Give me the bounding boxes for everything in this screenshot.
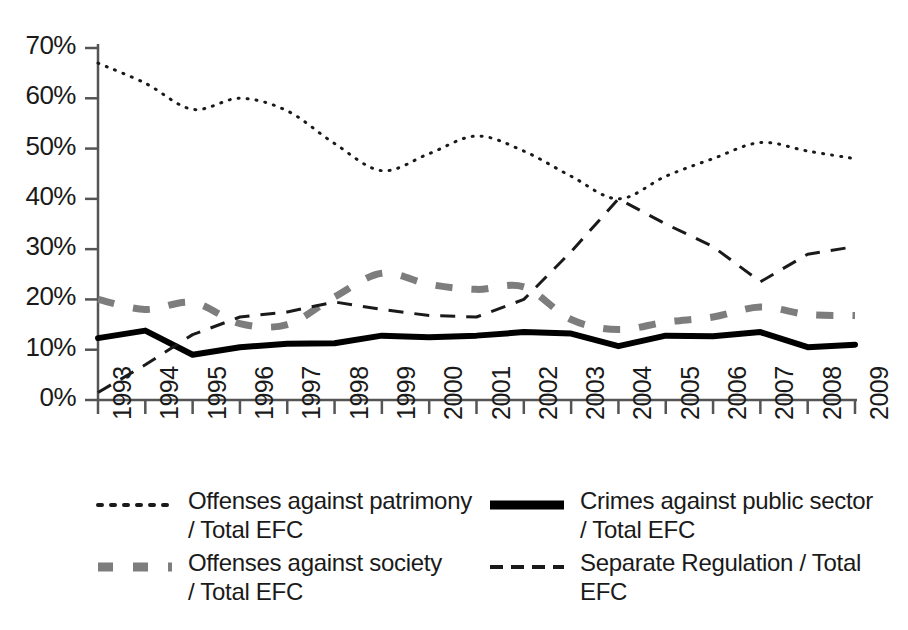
legend-label-offenses-against-patrimony: Offenses against patrimony / Total EFC — [188, 486, 488, 544]
legend-label-line2: / Total EFC — [580, 515, 880, 544]
y-axis-tick-label: 0% — [0, 382, 76, 413]
legend-label-line1: Crimes against public sector — [580, 486, 880, 515]
series-line-0 — [98, 63, 855, 199]
legend-item-offenses-against-patrimony[interactable]: Offenses against patrimony / Total EFC — [96, 488, 486, 548]
y-axis-tick-label: 50% — [0, 131, 76, 162]
chart-legend: Offenses against patrimony / Total EFC O… — [96, 488, 886, 618]
series-line-2 — [98, 331, 855, 355]
solid-swatch-icon — [488, 498, 566, 512]
x-axis-tick-label: 2001 — [487, 366, 516, 420]
x-axis-tick-label: 1997 — [297, 366, 326, 420]
x-axis-tick-label: 2000 — [439, 366, 468, 420]
y-axis-tick-label: 10% — [0, 332, 76, 363]
x-axis-tick-label: 2005 — [676, 366, 705, 420]
legend-item-crimes-against-public-sector[interactable]: Crimes against public sector / Total EFC — [488, 488, 878, 548]
series-line-1 — [98, 273, 855, 330]
y-axis-tick-label: 60% — [0, 80, 76, 111]
legend-column-right: Crimes against public sector / Total EFC… — [488, 488, 878, 618]
x-axis-tick-label: 1999 — [392, 366, 421, 420]
legend-label-line1: Separate Regulation / Total — [580, 548, 880, 577]
y-axis-ticks — [85, 48, 98, 400]
legend-item-separate-regulation[interactable]: Separate Regulation / Total EFC — [488, 550, 878, 610]
legend-label-offenses-against-society: Offenses against society / Total EFC — [188, 548, 488, 606]
line-chart: 0%10%20%30%40%50%60%70% 1993199419951996… — [0, 0, 908, 630]
x-axis-tick-label: 2006 — [723, 366, 752, 420]
dashed-thin-swatch-icon — [488, 560, 566, 574]
y-axis-tick-label: 30% — [0, 231, 76, 262]
x-axis-tick-label: 2008 — [818, 366, 847, 420]
x-axis-tick-label: 2009 — [865, 366, 894, 420]
x-axis-tick-label: 2003 — [581, 366, 610, 420]
x-axis-tick-label: 2004 — [628, 366, 657, 420]
x-axis-tick-label: 2002 — [534, 366, 563, 420]
x-axis-tick-label: 1995 — [203, 366, 232, 420]
x-axis-tick-label: 1994 — [155, 366, 184, 420]
x-axis-tick-label: 1998 — [345, 366, 374, 420]
legend-label-line1: Offenses against patrimony — [188, 486, 488, 515]
x-axis-tick-label: 2007 — [770, 366, 799, 420]
x-axis-tick-label: 1996 — [250, 366, 279, 420]
legend-label-line2: / Total EFC — [188, 515, 488, 544]
legend-label-crimes-against-public-sector: Crimes against public sector / Total EFC — [580, 486, 880, 544]
legend-label-line2: / Total EFC — [188, 577, 488, 606]
legend-label-line2: EFC — [580, 577, 880, 606]
legend-label-line1: Offenses against society — [188, 548, 488, 577]
y-axis-tick-label: 70% — [0, 30, 76, 61]
x-axis-tick-label: 1993 — [108, 366, 137, 420]
dashed-thick-swatch-icon — [96, 560, 174, 574]
y-axis-tick-label: 20% — [0, 281, 76, 312]
legend-label-separate-regulation: Separate Regulation / Total EFC — [580, 548, 880, 606]
series-line-3 — [98, 199, 855, 393]
legend-column-left: Offenses against patrimony / Total EFC O… — [96, 488, 486, 618]
dotted-swatch-icon — [96, 498, 174, 512]
y-axis-tick-label: 40% — [0, 181, 76, 212]
chart-series-group — [98, 63, 855, 392]
chart-axes — [98, 44, 857, 400]
legend-item-offenses-against-society[interactable]: Offenses against society / Total EFC — [96, 550, 486, 610]
